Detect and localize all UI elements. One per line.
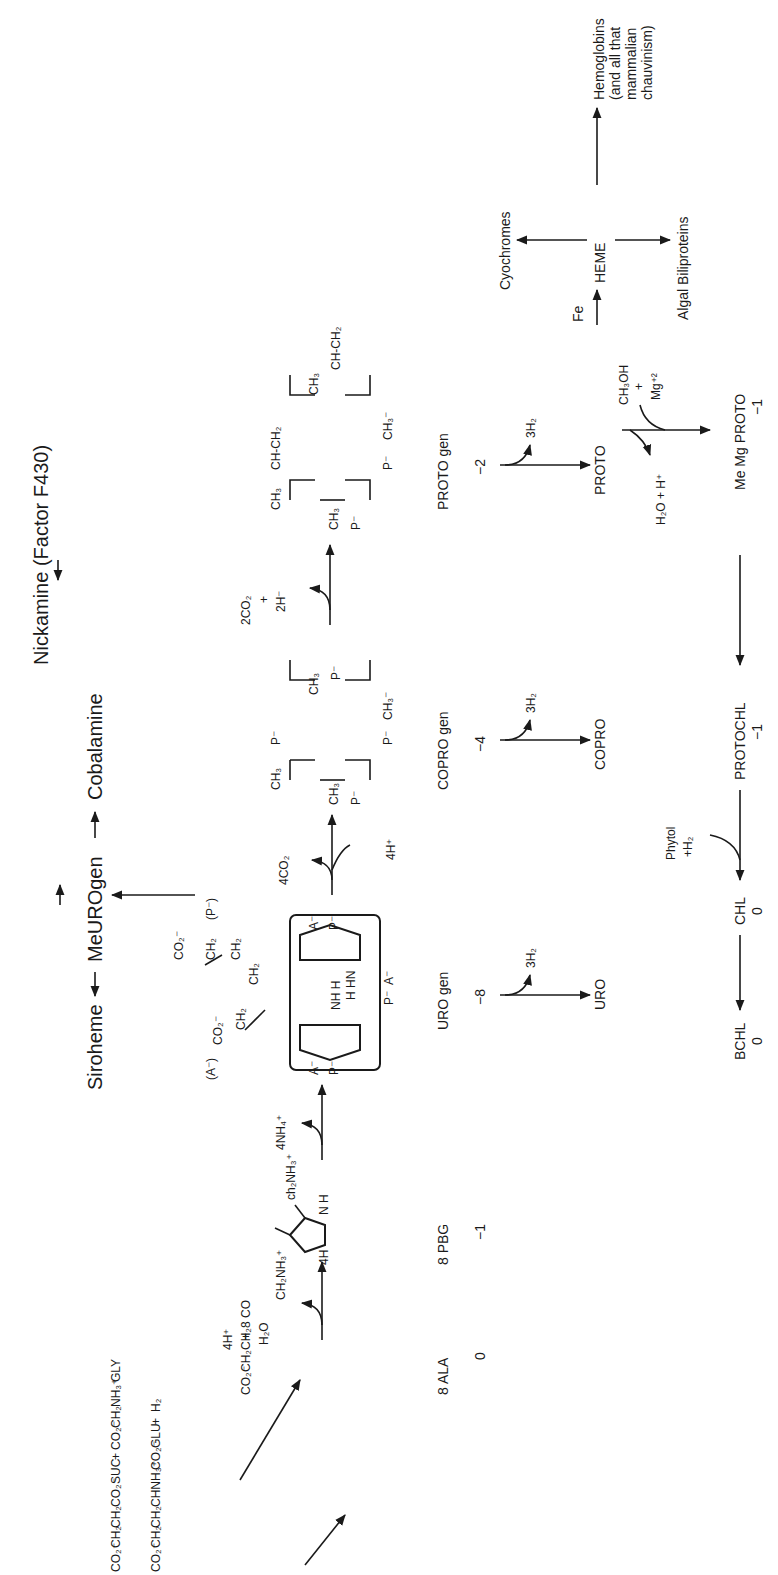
svg-text:CH₂: CH₂ [204,938,218,960]
pbg-label: 8 PBG [435,1224,451,1265]
svg-text:CH₂: CH₂ [109,1506,123,1528]
svg-text:+: + [109,1453,123,1460]
chl-charge: 0 [749,907,765,915]
copro-label: COPRO [592,719,608,770]
phytol-input: Phytol +H₂ [664,827,695,860]
arrow-release-3h2-copro [505,720,530,740]
svg-text:H₂O: H₂O [257,1322,271,1345]
chl-label: CHL [732,897,748,925]
svg-text:CH₂: CH₂ [149,1506,163,1528]
bchl-label: BCHL [732,1022,748,1060]
svg-text:CO₂⁻: CO₂⁻ [211,1016,225,1045]
svg-text:+: + [257,596,271,603]
svg-text:+: + [632,383,646,390]
svg-text:Hemoglobins: Hemoglobins [591,18,607,100]
svg-text:NH₃⁺: NH₃⁺ [274,1250,288,1278]
pathway-diagram: Nickamine (Factor F430) Siroheme MeUROge… [0,0,778,1575]
protochl-charge: −1 [749,724,765,740]
svg-text:P⁻: P⁻ [381,731,395,745]
svg-text:P⁻: P⁻ [327,1061,341,1075]
svg-text:CH₂: CH₂ [239,1350,253,1372]
proto-branch: Fe HEME Cyochromes Algal Biliproteins He… [497,18,765,525]
svg-text:4H: 4H [317,1250,331,1265]
coprogen-charge: −4 [472,736,488,752]
svg-text:P⁻: P⁻ [381,456,395,470]
biliproteins-label: Algal Biliproteins [675,217,691,321]
svg-text:CH₃: CH₃ [307,373,321,395]
suc-label: SUC [109,1458,123,1484]
siroheme-label: Siroheme [84,1004,106,1090]
cytochromes-label: Cyochromes [497,211,513,290]
svg-text:CO₂⁻: CO₂⁻ [172,931,186,960]
arrow-release-3h2-proto [505,445,530,465]
ch3oh-input: CH₃OH + Mg⁺² [617,365,663,405]
protogen-charge: −2 [472,459,488,475]
svg-text:(P⁻): (P⁻) [204,898,218,920]
svg-text:CH₃⁻: CH₃⁻ [381,412,395,440]
glu-label: GLU [149,1423,163,1448]
arrow-release-2co2 [310,588,330,610]
arrow-take-ch3oh [640,405,665,430]
svg-text:CH₂: CH₂ [247,963,261,985]
svg-text:NH H: NH H [329,981,343,1010]
svg-text:NH₃⁺: NH₃⁺ [109,1379,123,1407]
ala: CO₂⁻ CH₂ CH₂ 8 CO CH₂ NH₃⁺ 8 ALA 0 [239,1250,488,1395]
svg-text:CH-CH₂: CH-CH₂ [329,326,343,370]
svg-text:CH₃OH: CH₃OH [617,365,631,405]
coprogen: CH₃ P⁻ CH₃ P⁻ CH₃ P⁻ P⁻ CH₃⁻ COPRO gen −… [269,660,608,805]
svg-text:H₂: H₂ [149,1398,163,1412]
svg-text:CH₃⁻: CH₃⁻ [381,692,395,720]
svg-text:CH₂: CH₂ [109,1526,123,1548]
mgproto-label: Me Mg PROTO [732,394,748,490]
svg-text:CH₂: CH₂ [229,938,243,960]
arrow-glu-to-ala [305,1515,345,1565]
svg-text:CH₂: CH₂ [274,1278,288,1300]
svg-text:CH₂: CH₂ [149,1526,163,1548]
ala-charge: 0 [472,1352,488,1360]
svg-text:N H: N H [317,1194,331,1215]
svg-text:A⁻: A⁻ [307,916,321,930]
coprogen-label: COPRO gen [435,711,451,790]
arrow-take-phytol [710,835,740,860]
nickamine-label: Nickamine (Factor F430) [30,445,52,665]
svg-text:CH₃: CH₃ [269,488,283,510]
svg-text:+: + [239,1333,253,1340]
svg-text:4H⁺: 4H⁺ [221,1329,235,1350]
succinate: CO₂⁻ CH₂ CH₂ CO₂⁻ SUC [109,1458,123,1572]
svg-text:A⁻: A⁻ [382,971,396,985]
svg-text:CH₂: CH₂ [234,1008,248,1030]
svg-text:CH₂: CH₂ [109,1406,123,1428]
svg-text:CH₃: CH₃ [269,768,283,790]
nh4-byproduct: 4NH₄⁺ [274,1115,288,1150]
arrow-release-3h2-uro [505,975,530,995]
arrow-release-h2o [630,430,650,455]
arrow-release-h2o [302,1303,322,1325]
svg-text:CH₃: CH₃ [327,508,341,530]
svg-text:P⁻: P⁻ [382,991,396,1005]
svg-text:+H₂: +H₂ [681,836,695,857]
svg-text:chauvinism): chauvinism) [639,25,655,100]
heme-label: HEME [592,243,608,283]
h2o-byproduct: H₂O + H⁺ [654,474,668,525]
svg-text:(and all that: (and all that [607,27,623,100]
svg-text:A⁻: A⁻ [307,1061,321,1075]
svg-text:(A⁻): (A⁻) [204,1058,218,1080]
pbg: 4H N H ch₂NH₃⁺ 8 PBG −1 [275,1154,488,1265]
cobalamine-label: Cobalamine [84,693,106,800]
svg-text:CH₃: CH₃ [307,673,321,695]
precursors: CO₂⁻ CH₂ CH₂ CO₂⁻ SUC + CO₂⁻ CH₂ NH₃⁺ GL… [109,1359,163,1572]
arrow-take-4h [332,845,350,870]
protogen: CH₃ CH-CH₂ CH₃ CH₃ CH-CH₂ P⁻ P⁻ CH₃⁻ PRO… [269,326,608,530]
protochl-label: PROTOCHL [732,702,748,780]
bchl-charge: 0 [749,1037,765,1045]
svg-text:P⁻: P⁻ [329,666,343,680]
svg-text:8 CO: 8 CO [239,1300,253,1328]
svg-text:CH-CH₂: CH-CH₂ [269,426,283,470]
urogen-label: URO gen [435,972,451,1030]
svg-text:+: + [149,1418,163,1425]
svg-text:Phytol: Phytol [664,827,678,860]
pyrrole-ring-icon [290,1218,325,1252]
svg-text:3H₂: 3H₂ [524,948,538,968]
svg-text:CH₃: CH₃ [327,783,341,805]
branch-top: Nickamine (Factor F430) Siroheme MeUROge… [30,445,195,1090]
